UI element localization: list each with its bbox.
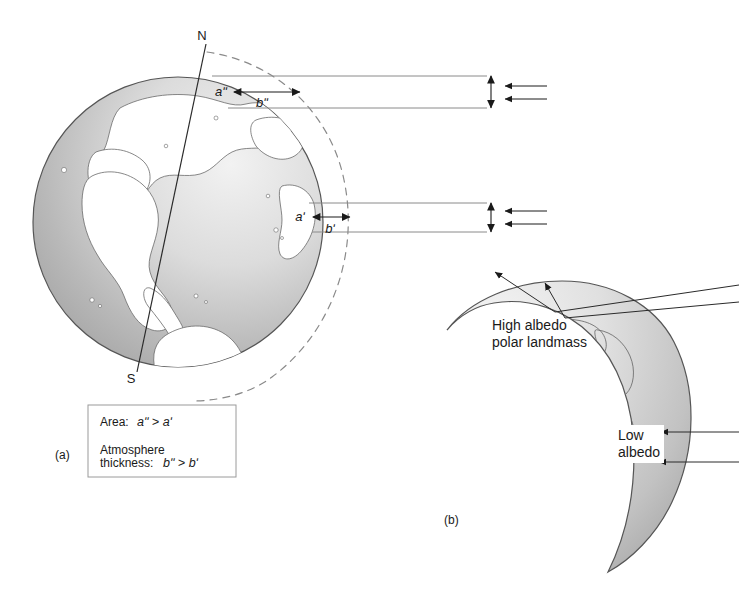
high-albedo-label-line1: High albedo — [492, 317, 567, 333]
upper-thickness-label: bʺ — [256, 95, 269, 110]
panel-a: N S aʺ bʺ aʹ bʹ — [33, 28, 547, 477]
legend-thickness-label-line2: thickness: — [100, 456, 153, 470]
south-pole-label: S — [127, 371, 136, 386]
panel-b: High albedo polar landmass Low albedo (b… — [444, 272, 739, 572]
legend-area-label: Area: — [100, 415, 129, 429]
low-albedo-label-line2: albedo — [618, 444, 660, 460]
legend-thickness-value: bʺ > bʹ — [163, 456, 199, 470]
legend-box: Area: aʺ > aʹ Atmosphere thickness: bʺ >… — [88, 405, 236, 477]
lower-area-label: aʹ — [295, 209, 305, 224]
low-albedo-label-line1: Low — [618, 427, 645, 443]
panel-b-label: (b) — [444, 513, 459, 527]
lower-sunbeam: aʹ bʹ — [295, 203, 547, 236]
panel-a-label: (a) — [55, 448, 70, 462]
lower-thickness-label: bʹ — [325, 221, 335, 236]
climate-albedo-figure: N S aʺ bʺ aʹ bʹ — [0, 0, 739, 589]
upper-sunbeam: aʺ bʺ — [212, 76, 547, 110]
legend-thickness-label-line1: Atmosphere — [100, 443, 165, 457]
high-albedo-label-line2: polar landmass — [492, 334, 587, 350]
upper-area-label: aʺ — [215, 84, 228, 99]
legend-area-value: aʺ > aʹ — [137, 415, 173, 429]
north-pole-label: N — [197, 28, 206, 43]
